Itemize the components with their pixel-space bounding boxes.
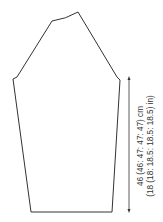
- arrow-up-icon: [128, 76, 131, 80]
- sleeve-length-cm: 46 (46: 47: 47: 47) cm: [136, 66, 146, 222]
- length-dimension-arrow: [128, 76, 131, 213]
- arrow-down-icon: [128, 209, 131, 213]
- sleeve-length-in: (18 (18: 18.5: 18.5: 18.5) in): [146, 66, 156, 222]
- sleeve-length-label: 46 (46: 47: 47: 47) cm (18 (18: 18.5: 18…: [136, 66, 156, 222]
- sleeve-outline: [13, 12, 120, 212]
